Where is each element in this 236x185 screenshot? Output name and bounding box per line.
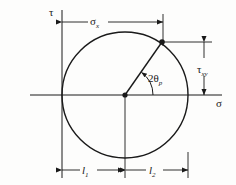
radius-group xyxy=(122,39,164,97)
diagram-canvas: 2θp σx τxy l1 l2 τ σ xyxy=(0,0,236,185)
sigma-x-label: σx xyxy=(90,15,100,30)
mohrs-circle-figure: 2θp σx τxy l1 l2 τ σ xyxy=(0,0,236,185)
angle-label: 2θp xyxy=(148,72,163,87)
stress-state-point xyxy=(159,39,165,45)
l1-label: l1 xyxy=(82,164,89,179)
l2-label: l2 xyxy=(149,164,156,179)
sigma-x-dimension-group xyxy=(62,14,163,46)
sigma-axis-label: σ xyxy=(216,97,222,109)
radius-line xyxy=(125,42,162,95)
tau-xy-label: τxy xyxy=(197,63,209,78)
tau-axis-label: τ xyxy=(49,6,54,18)
bottom-dimension-group xyxy=(62,95,188,178)
